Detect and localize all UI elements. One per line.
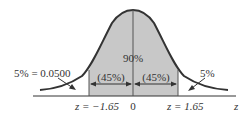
right-tail-pointer bbox=[192, 78, 205, 88]
center-zero-label: 0 bbox=[130, 100, 136, 112]
left-z-label: z = −1.65 bbox=[74, 100, 119, 112]
left-tail-arrowhead bbox=[69, 84, 76, 90]
left-tail-label: 5% = 0.0500 bbox=[14, 67, 71, 79]
left-half-percent-label: (45%) bbox=[97, 71, 125, 84]
axis-name-label: z bbox=[233, 100, 239, 112]
right-z-label: z = 1.65 bbox=[166, 100, 204, 112]
right-tail-label: 5% bbox=[200, 67, 215, 79]
normal-curve-diagram: 90% (45%) (45%) 5% = 0.0500 5% z = −1.65… bbox=[0, 0, 246, 117]
center-percent-label: 90% bbox=[123, 52, 143, 64]
right-half-percent-label: (45%) bbox=[142, 71, 170, 84]
